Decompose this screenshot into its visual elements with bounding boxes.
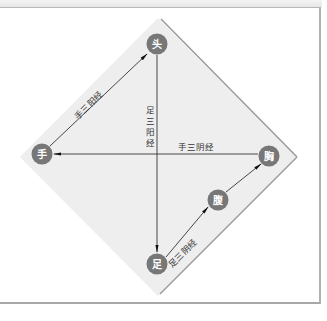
svg-text:手: 手	[37, 148, 47, 160]
svg-text:经: 经	[146, 138, 155, 148]
svg-text:腹: 腹	[213, 194, 224, 206]
svg-text:头: 头	[152, 38, 162, 50]
node-abdomen: 腹	[208, 190, 229, 211]
svg-text:足: 足	[146, 105, 155, 115]
node-hand: 手	[32, 144, 53, 165]
node-head: 头	[147, 34, 168, 55]
node-foot: 足	[147, 254, 168, 275]
svg-text:三: 三	[146, 116, 155, 126]
node-chest: 胸	[259, 146, 280, 167]
svg-text:阳: 阳	[146, 127, 155, 137]
label-foot-yang-vertical: 足 三 阳 经	[146, 105, 155, 148]
svg-text:胸: 胸	[264, 150, 274, 162]
svg-text:足: 足	[152, 259, 163, 270]
meridian-diagram: 手三阳经 手三阴经 足三阴经 足 三 阳 经 头 手 胸 腹 足	[0, 0, 327, 321]
label-hand-yin: 手三阴经	[178, 142, 214, 152]
